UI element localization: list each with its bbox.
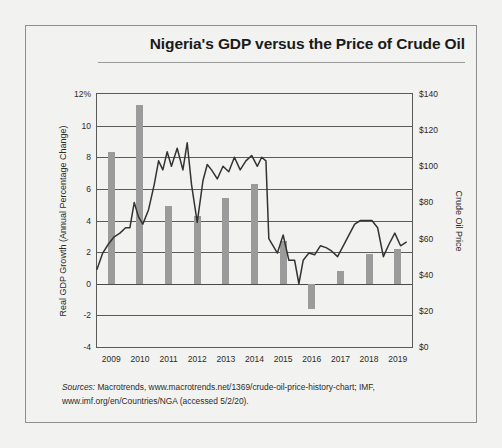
title-underline: [98, 62, 465, 63]
x-axis-tick-label: 2018: [360, 354, 379, 364]
y-axis-left-label: Real GDP Growth (Annual Percentage Chang…: [56, 93, 70, 348]
y-axis-left-tick-label: 12%: [74, 89, 91, 99]
x-axis-tick-label: 2017: [331, 354, 350, 364]
x-axis-tick-label: 2012: [188, 354, 207, 364]
y-axis-left-tick-label: 10: [82, 121, 91, 131]
x-axis-tick-label: 2009: [102, 354, 121, 364]
x-axis-tick-label: 2015: [274, 354, 293, 364]
figure-root: Nigeria's GDP versus the Price of Crude …: [0, 0, 502, 448]
y-axis-right-tick-label: $80: [419, 197, 433, 207]
y-axis-left-tick-label: -2: [83, 310, 91, 320]
x-axis-tick-label: 2019: [388, 354, 407, 364]
y-axis-right-tick-label: $120: [419, 125, 438, 135]
y-axis-right-tick-label: $60: [419, 234, 433, 244]
y-axis-left-tick-label: 8: [86, 152, 91, 162]
y-axis-right-label-text: Crude Oil Price: [454, 190, 464, 251]
y-axis-right-tick-label: $40: [419, 270, 433, 280]
x-axis-tick-label: 2010: [130, 354, 149, 364]
chart-title: Nigeria's GDP versus the Price of Crude …: [40, 35, 465, 53]
y-axis-right-tick-label: $0: [419, 342, 428, 352]
sources-prefix: Sources:: [62, 382, 95, 392]
y-axis-left-tick-label: 0: [86, 279, 91, 289]
oil-price-line: [97, 143, 406, 284]
x-axis-tick-label: 2011: [159, 354, 177, 364]
sources-note: Sources: Macrotrends, www.macrotrends.ne…: [62, 381, 462, 409]
y-axis-left-tick-label: 6: [86, 184, 91, 194]
x-axis-tick-label: 2014: [245, 354, 264, 364]
y-axis-right-label: Crude Oil Price: [452, 93, 466, 348]
y-axis-left-tick-label: 4: [86, 216, 91, 226]
y-axis-right-tick-label: $20: [419, 306, 433, 316]
y-axis-left-tick-label: -4: [83, 342, 91, 352]
plot-area: -4-2024681012% $0$20$40$60$80$100$120$14…: [96, 93, 413, 348]
y-axis-left-label-text: Real GDP Growth (Annual Percentage Chang…: [58, 125, 68, 316]
sources-text: Macrotrends, www.macrotrends.net/1369/cr…: [62, 382, 375, 406]
x-axis-tick-label: 2013: [216, 354, 235, 364]
x-axis-tick-label: 2016: [302, 354, 321, 364]
oil-price-line-series: [97, 94, 412, 347]
y-axis-right-tick-label: $140: [419, 89, 438, 99]
y-axis-right-tick-label: $100: [419, 161, 438, 171]
y-axis-left-tick-label: 2: [86, 247, 91, 257]
